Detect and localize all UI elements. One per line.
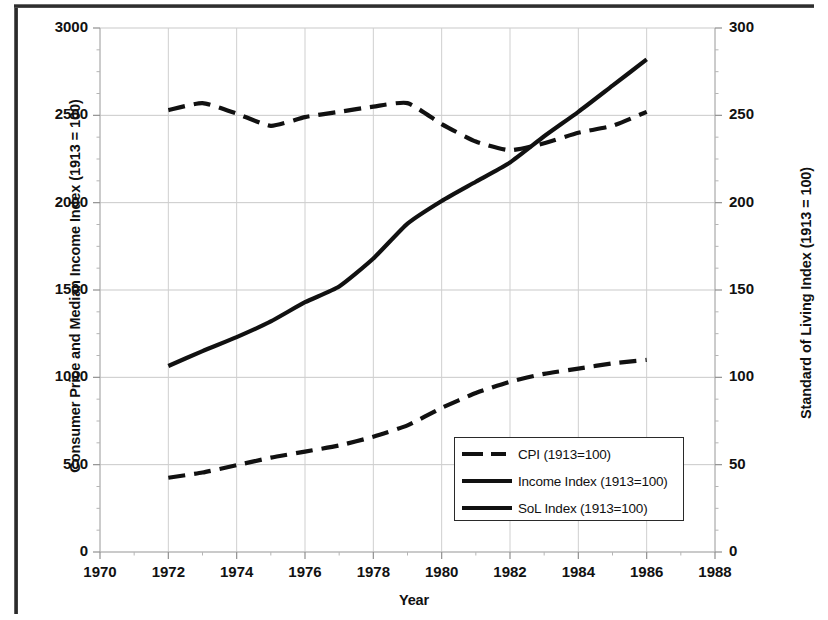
x-axis-tick-label: 1984 [543,563,613,580]
series-line-1 [168,59,646,366]
legend-swatch-solid-icon [462,467,518,495]
x-axis-tick-label: 1980 [407,563,477,580]
legend-item: CPI (1913=100) [455,440,685,468]
legend-swatch-dashed-icon [462,440,518,468]
y-axis-right-tick-label: 300 [729,18,799,35]
x-axis-tick-label: 1970 [65,563,135,580]
legend-item: Income Index (1913=100) [455,467,685,495]
legend-swatch-solid-icon [462,494,518,522]
series-line-2 [168,103,646,151]
y-axis-right-tick-label: 100 [729,367,799,384]
y-axis-left-tick-label: 500 [18,455,88,472]
y-axis-right-tick-label: 250 [729,105,799,122]
plot-area [0,0,828,620]
y-axis-left-tick-label: 2500 [18,105,88,122]
legend-label: Income Index (1913=100) [518,474,668,489]
y-axis-left-tick-label: 0 [18,542,88,559]
legend-item: SoL Index (1913=100) [455,494,685,522]
chart-figure: Consumer Price and Median Income Index (… [0,0,828,620]
x-axis-tick-label: 1982 [475,563,545,580]
x-axis-tick-label: 1988 [680,563,750,580]
y-axis-left-tick-label: 2000 [18,193,88,210]
x-axis-tick-label: 1978 [338,563,408,580]
legend-label: CPI (1913=100) [518,447,611,462]
y-axis-left-tick-label: 1500 [18,280,88,297]
x-axis-title: Year [0,592,828,608]
x-axis-tick-label: 1974 [202,563,272,580]
y-axis-left-tick-label: 3000 [18,18,88,35]
y-axis-right-tick-label: 150 [729,280,799,297]
y-axis-left-tick-label: 1000 [18,367,88,384]
series-lines [168,59,646,477]
legend-label: SoL Index (1913=100) [518,501,647,516]
chart-legend: CPI (1913=100)Income Index (1913=100)SoL… [454,437,684,521]
y-axis-right-tick-label: 200 [729,193,799,210]
x-axis-tick-label: 1976 [270,563,340,580]
x-axis-tick-label: 1986 [612,563,682,580]
x-axis-tick-label: 1972 [133,563,203,580]
y-axis-right-tick-label: 50 [729,455,799,472]
y-axis-right-title: Standard of Living Index (1913 = 100) [798,83,814,503]
y-axis-right-tick-label: 0 [729,542,799,559]
